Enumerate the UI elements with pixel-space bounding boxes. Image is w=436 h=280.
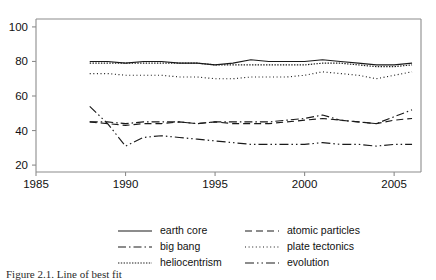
y-tick-label: 80: [15, 55, 28, 67]
x-tick-label: 1990: [113, 178, 139, 190]
x-tick-label: 2000: [292, 178, 318, 190]
legend-label-plate-tectonics: plate tectonics: [287, 240, 354, 252]
y-tick-label: 100: [9, 21, 28, 33]
legend-label-evolution: evolution: [287, 256, 329, 268]
figure-caption: Figure 2.1. Line of best fit: [6, 268, 430, 280]
y-tick-label: 40: [15, 125, 28, 137]
legend-label-earth-core: earth core: [160, 224, 207, 236]
series-line-earth-core: [90, 60, 412, 65]
series-group: [90, 60, 412, 146]
legend-label-big-bang: big bang: [160, 240, 200, 252]
x-tick-label: 1995: [202, 178, 228, 190]
legend-label-atomic-particles: atomic particles: [287, 224, 360, 236]
chart-legend: earth coreatomic particlesbig bangplate …: [118, 224, 360, 268]
axes-group: 2040608010019851990199520002005: [9, 19, 421, 190]
y-tick-label: 60: [15, 90, 28, 102]
x-tick-label: 1985: [23, 178, 49, 190]
x-tick-label: 2005: [381, 178, 407, 190]
y-tick-label: 20: [15, 159, 28, 171]
series-line-big-bang: [90, 110, 412, 124]
series-line-evolution: [90, 106, 412, 146]
series-line-plate-tectonics: [90, 72, 412, 79]
legend-label-heliocentrism: heliocentrism: [160, 256, 222, 268]
